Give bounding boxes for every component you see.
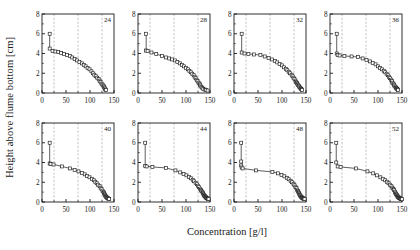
data-point-marker (48, 32, 51, 35)
data-point-marker (343, 54, 346, 57)
data-point-marker (60, 52, 63, 55)
y-tick-label-2: 2 (324, 179, 328, 187)
plot-panel-28: 0501001500246828 (116, 6, 216, 115)
data-point-marker (356, 55, 359, 58)
y-tick-label-6: 6 (324, 139, 328, 147)
x-tick-label-100: 100 (181, 206, 192, 214)
data-point-marker (164, 56, 167, 59)
data-point-marker (164, 166, 167, 169)
data-point-marker (335, 32, 338, 35)
x-tick-label-50: 50 (158, 97, 166, 105)
y-tick-label-8: 8 (324, 11, 328, 19)
data-point-marker (155, 52, 158, 55)
data-point-marker (270, 58, 273, 61)
y-tick-label-6: 6 (228, 30, 232, 38)
y-tick-label-2: 2 (132, 179, 136, 187)
data-point-marker (146, 50, 149, 53)
x-tick-label-0: 0 (40, 97, 44, 105)
panel-label-48: 48 (296, 125, 304, 133)
data-point-marker (145, 165, 148, 168)
data-point-marker (61, 165, 64, 168)
y-tick-label-4: 4 (228, 50, 232, 58)
y-tick-label-0: 0 (324, 90, 328, 98)
y-tick-label-4: 4 (132, 159, 136, 167)
y-tick-label-8: 8 (132, 11, 136, 19)
data-point-marker (336, 165, 339, 168)
concentration-profile-figure: Height above flume bottom [cm] 050100150… (0, 0, 420, 250)
x-tick-label-50: 50 (158, 206, 166, 214)
y-tick-label-8: 8 (228, 11, 232, 19)
data-point-marker (397, 89, 400, 92)
y-tick-label-2: 2 (324, 70, 328, 78)
y-tick-label-4: 4 (36, 159, 40, 167)
data-point-marker (63, 52, 66, 55)
x-tick-label-0: 0 (40, 206, 44, 214)
data-point-marker (376, 174, 379, 177)
y-tick-label-0: 0 (228, 90, 232, 98)
x-tick-label-0: 0 (232, 206, 236, 214)
y-tick-label-6: 6 (132, 139, 136, 147)
x-tick-label-0: 0 (328, 206, 332, 214)
y-tick-label-6: 6 (36, 139, 40, 147)
data-point-marker (365, 58, 368, 61)
data-point-marker (52, 163, 55, 166)
data-point-marker (247, 52, 250, 55)
x-tick-label-50: 50 (62, 206, 70, 214)
data-point-marker (54, 50, 57, 53)
x-tick-label-150: 150 (397, 206, 408, 214)
data-point-marker (171, 58, 174, 61)
data-point-marker (57, 51, 60, 54)
data-point-marker (259, 53, 262, 56)
data-point-marker (144, 141, 147, 144)
data-point-marker (240, 141, 243, 144)
data-point-marker (240, 160, 243, 163)
y-tick-label-2: 2 (228, 70, 232, 78)
data-point-marker (240, 51, 243, 54)
y-tick-label-4: 4 (324, 50, 328, 58)
data-point-marker (372, 172, 375, 175)
x-tick-label-100: 100 (373, 206, 384, 214)
data-point-marker (339, 165, 342, 168)
plot-panel-32: 0501001500246832 (212, 6, 312, 115)
data-point-marker (150, 51, 153, 54)
y-tick-label-8: 8 (228, 120, 232, 128)
y-tick-label-4: 4 (228, 159, 232, 167)
x-tick-label-50: 50 (350, 97, 358, 105)
x-tick-label-100: 100 (85, 206, 96, 214)
data-point-marker (253, 53, 256, 56)
y-tick-label-8: 8 (324, 120, 328, 128)
x-tick-label-0: 0 (232, 97, 236, 105)
x-tick-label-0: 0 (136, 206, 140, 214)
data-point-marker (161, 54, 164, 57)
data-point-marker (303, 198, 306, 201)
plot-panel-44: 0501001500246844 (116, 115, 216, 224)
plot-panel-24: 0501001500246824 (20, 6, 120, 115)
data-point-marker (80, 171, 83, 174)
data-point-marker (240, 32, 243, 35)
data-point-marker (48, 47, 51, 50)
panel-row: 0501001500246824050100150024682805010015… (20, 6, 420, 115)
panel-row: 0501001500246840050100150024684405010015… (20, 115, 420, 224)
y-tick-label-4: 4 (36, 50, 40, 58)
panel-label-40: 40 (104, 125, 112, 133)
data-point-marker (263, 55, 266, 58)
panel-grid: 0501001500246824050100150024682805010015… (20, 6, 420, 224)
y-tick-label-0: 0 (36, 199, 40, 207)
y-tick-label-8: 8 (36, 11, 40, 19)
data-point-marker (65, 53, 68, 56)
panel-label-24: 24 (104, 16, 112, 24)
data-point-marker (77, 170, 80, 173)
data-point-marker (301, 89, 304, 92)
data-point-marker (174, 169, 177, 172)
data-point-marker (280, 173, 283, 176)
panel-label-28: 28 (200, 16, 208, 24)
data-point-marker (48, 141, 51, 144)
y-tick-label-8: 8 (132, 120, 136, 128)
data-point-marker (73, 168, 76, 171)
panel-label-36: 36 (392, 16, 400, 24)
data-point-marker (255, 169, 258, 172)
y-tick-label-2: 2 (132, 70, 136, 78)
panel-label-44: 44 (200, 125, 208, 133)
y-tick-label-0: 0 (36, 90, 40, 98)
data-point-marker (271, 170, 274, 173)
